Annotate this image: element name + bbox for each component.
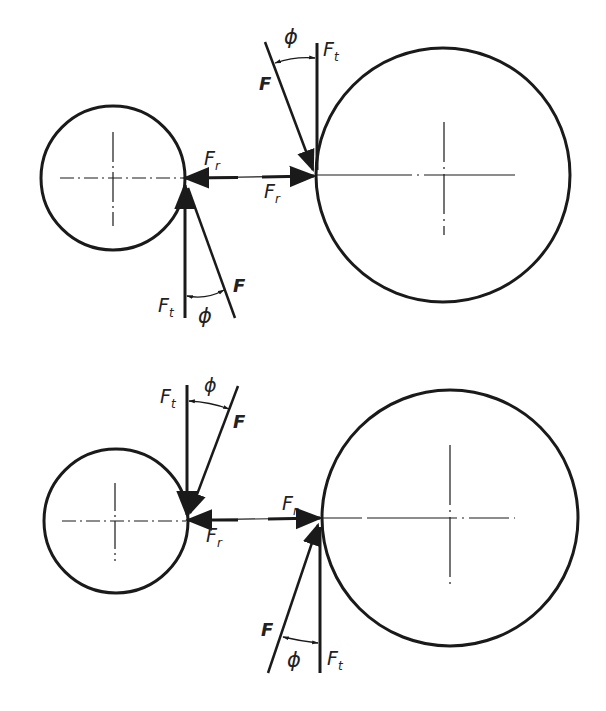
top-phi-upper-label: ϕ [284, 25, 298, 49]
top-fr-arrow-right [262, 176, 314, 177]
top-gear-pair [41, 42, 570, 318]
bottom-gear-pair [44, 385, 578, 673]
top-f-upper-arrow [265, 42, 313, 170]
top-phi-lower-label: ϕ [198, 304, 212, 328]
gear-force-diagram: ϕ Ft F Fr Fr F Ft ϕ Ft ϕ F F [0, 0, 606, 711]
bottom-f-upper-label: F [233, 411, 246, 432]
bottom-f-lower-label: F [261, 619, 274, 640]
top-f-lower-arrow [188, 188, 235, 318]
bottom-fr-lower-label: Fr [206, 524, 223, 550]
bottom-phi-lower-label: ϕ [287, 648, 301, 672]
top-fr-left-label: Fr [204, 147, 221, 173]
top-fr-arrow-left [185, 178, 238, 179]
bottom-fr-upper-label: Fr [282, 492, 299, 518]
top-f-upper-label: F [259, 73, 272, 94]
top-phi-lower-arc [187, 290, 224, 297]
bottom-ft-upper-label: Ft [160, 385, 177, 411]
top-phi-upper-arc [275, 58, 315, 63]
top-f-lower-label: F [233, 275, 246, 296]
bottom-fr-arrow-right [268, 518, 320, 519]
top-fr-right-label: Fr [264, 180, 281, 206]
bottom-phi-lower-arc [283, 637, 318, 643]
bottom-ft-lower-label: Ft [327, 647, 344, 673]
bottom-phi-upper-label: ϕ [204, 374, 217, 396]
top-ft-lower-label: Ft [158, 294, 175, 320]
top-ft-upper-label: Ft [323, 38, 340, 64]
bottom-phi-upper-arc [189, 401, 229, 409]
